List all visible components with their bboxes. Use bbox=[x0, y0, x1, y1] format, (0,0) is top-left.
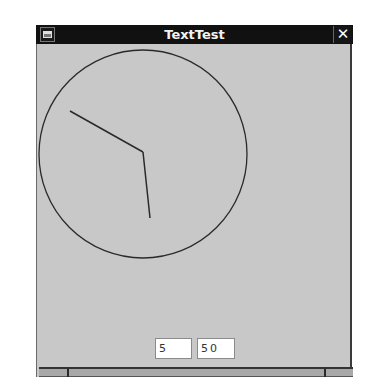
texttest-window: TextTest ✕ 5 50 bbox=[36, 25, 352, 377]
window-title: TextTest bbox=[36, 26, 353, 43]
title-bar[interactable]: TextTest ✕ bbox=[36, 25, 353, 44]
hour-hand bbox=[70, 111, 143, 152]
minute-hand bbox=[143, 152, 150, 218]
clock-canvas bbox=[37, 44, 351, 334]
hours-field[interactable]: 5 bbox=[155, 338, 192, 359]
resize-frame-bottom[interactable] bbox=[39, 367, 353, 377]
resize-corner-left-divider bbox=[67, 369, 69, 377]
close-button[interactable]: ✕ bbox=[333, 26, 352, 43]
minutes-field[interactable]: 50 bbox=[197, 338, 235, 359]
resize-corner-right-divider bbox=[324, 369, 326, 377]
close-icon: ✕ bbox=[337, 25, 350, 43]
